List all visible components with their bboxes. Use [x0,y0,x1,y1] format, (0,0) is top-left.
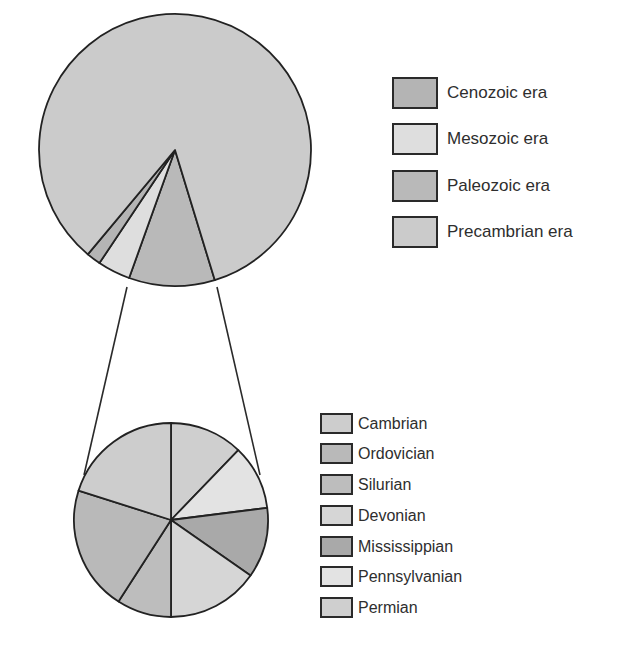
legend-swatch [320,505,353,526]
legend-swatch [392,77,438,109]
legend-label: Cambrian [358,415,427,433]
legend-item-paleozoic: Paleozoic era [392,170,550,202]
legend-swatch [320,443,353,464]
legend-label: Mississippian [358,538,453,556]
legend-swatch [392,216,438,248]
legend-label: Silurian [358,476,411,494]
legend-item-devonian: Devonian [320,505,426,526]
legend-label: Permian [358,599,418,617]
legend-swatch [392,170,438,202]
legend-label: Mesozoic era [447,129,548,149]
legend-item-ordovician: Ordovician [320,443,434,464]
legend-item-silurian: Silurian [320,474,411,495]
legend-item-mississippian: Mississippian [320,536,453,557]
legend-label: Precambrian era [447,222,573,242]
legend-swatch [392,123,438,155]
legend-swatch [320,566,353,587]
paleozoic-period-pie-chart [74,423,268,617]
legend-item-precambrian: Precambrian era [392,216,573,248]
legend-swatch [320,413,353,434]
legend-label: Ordovician [358,445,434,463]
legend-label: Paleozoic era [447,176,550,196]
legend-item-cenozoic: Cenozoic era [392,77,547,109]
era-pie-chart [39,14,311,286]
legend-swatch [320,536,353,557]
legend-swatch [320,474,353,495]
legend-label: Devonian [358,507,426,525]
legend-label: Cenozoic era [447,83,547,103]
legend-item-cambrian: Cambrian [320,413,427,434]
legend-item-permian: Permian [320,597,418,618]
legend-label: Pennsylvanian [358,568,462,586]
legend-item-mesozoic: Mesozoic era [392,123,548,155]
legend-item-pennsylvanian: Pennsylvanian [320,566,462,587]
legend-swatch [320,597,353,618]
